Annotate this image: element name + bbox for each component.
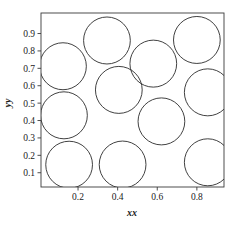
y-axis-title: yy xyxy=(2,98,13,108)
y-tick-label: 0.7 xyxy=(23,64,35,74)
plot-frame xyxy=(41,13,224,187)
data-circle xyxy=(46,141,93,188)
x-axis-title: xx xyxy=(126,207,137,218)
y-tick-label: 0.8 xyxy=(23,46,35,56)
data-circle xyxy=(84,17,131,64)
y-tick-label: 0.3 xyxy=(23,133,35,143)
data-circle xyxy=(138,98,185,145)
x-tick-label: 0.6 xyxy=(151,192,163,202)
data-circle xyxy=(95,66,142,113)
y-tick-label: 0.6 xyxy=(23,81,35,91)
y-tick-label: 0.2 xyxy=(23,151,35,161)
x-tick-label: 0.4 xyxy=(112,192,124,202)
figure-container: 0.20.40.60.8 0.10.20.30.40.50.60.70.80.9… xyxy=(0,0,233,230)
y-tick-label: 0.5 xyxy=(23,99,35,109)
data-circles-group xyxy=(40,16,232,188)
data-circle xyxy=(174,16,221,63)
x-tick-label: 0.8 xyxy=(191,192,203,202)
y-tick-label: 0.9 xyxy=(23,29,35,39)
x-tick-label: 0.2 xyxy=(72,192,84,202)
data-circle xyxy=(99,141,146,188)
data-circle xyxy=(40,43,87,90)
x-axis-ticks: 0.20.40.60.8 xyxy=(72,187,203,202)
data-circle xyxy=(130,40,177,87)
y-tick-label: 0.1 xyxy=(23,168,35,178)
y-tick-label: 0.4 xyxy=(23,116,35,126)
plot-canvas: 0.20.40.60.8 0.10.20.30.40.50.60.70.80.9… xyxy=(0,0,233,230)
y-axis-ticks: 0.10.20.30.40.50.60.70.80.9 xyxy=(23,29,41,178)
data-circle xyxy=(41,92,88,139)
